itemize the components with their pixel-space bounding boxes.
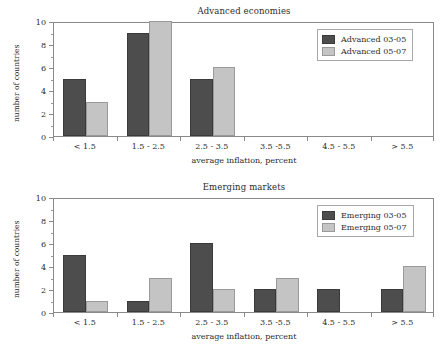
bar — [213, 67, 236, 136]
bar-group — [181, 23, 245, 136]
figure: Advanced economies number of countries 0… — [0, 0, 445, 351]
y-axis-tick-label: 2 — [24, 110, 46, 119]
y-axis-tick-label: 4 — [24, 87, 46, 96]
x-axis-tick-label: < 1.5 — [74, 142, 96, 151]
bar — [276, 278, 299, 313]
x-axis-tick-label: 4.5 - 5.5 — [322, 142, 355, 151]
legend-item: Emerging 05-07 — [322, 221, 407, 233]
x-axis-tick — [244, 137, 245, 141]
chart-title: Emerging markets — [53, 182, 435, 192]
y-axis-tick-label: 10 — [24, 194, 46, 203]
y-axis-tick-label: 4 — [24, 263, 46, 272]
legend-label: Advanced 03-05 — [341, 34, 406, 45]
x-axis-tick — [180, 313, 181, 317]
x-axis-tick-label: > 5.5 — [391, 142, 413, 151]
bar — [149, 278, 172, 313]
bar-group — [245, 199, 309, 312]
y-axis-ticks: 0246810 — [26, 22, 53, 137]
bar — [63, 79, 86, 137]
x-axis-tick — [371, 137, 372, 141]
bar — [403, 266, 426, 312]
x-axis-tick-label: 3.5 -5.5 — [260, 318, 291, 327]
x-axis-tick-label: 2.5 - 3.5 — [195, 318, 228, 327]
legend-item: Advanced 03-05 — [322, 33, 406, 45]
legend-item: Emerging 03-05 — [322, 209, 407, 221]
x-axis-tick — [371, 313, 372, 317]
x-axis-tick-labels: < 1.51.5 - 2.52.5 - 3.53.5 -5.54.5 - 5.5… — [53, 318, 435, 330]
x-axis-tick-label: 2.5 - 3.5 — [195, 142, 228, 151]
x-axis-tick — [433, 137, 434, 141]
bar — [317, 289, 340, 312]
x-axis-tick-label: > 5.5 — [391, 318, 413, 327]
x-axis-tick — [307, 137, 308, 141]
legend: Advanced 03-05 Advanced 05-07 — [317, 29, 413, 61]
x-axis-tick — [180, 137, 181, 141]
y-axis-tick-label: 0 — [24, 133, 46, 142]
bar — [213, 289, 236, 312]
bar-group — [118, 23, 182, 136]
y-axis-tick-label: 6 — [24, 240, 46, 249]
x-axis-tick — [244, 313, 245, 317]
bar — [86, 301, 109, 313]
chart-panel-emerging-markets: Emerging markets number of countries 024… — [0, 176, 445, 351]
y-axis-label: number of countries — [12, 45, 21, 122]
x-axis-label: average inflation, percent — [53, 156, 435, 165]
x-axis-tick — [117, 137, 118, 141]
y-axis-tick-label: 8 — [24, 41, 46, 50]
legend: Emerging 03-05 Emerging 05-07 — [317, 205, 414, 237]
bar — [254, 289, 277, 312]
bar-group — [181, 199, 245, 312]
legend-swatch-icon — [322, 211, 335, 220]
chart-panel-advanced-economies: Advanced economies number of countries 0… — [0, 0, 445, 175]
chart-title: Advanced economies — [53, 6, 435, 16]
bar — [190, 243, 213, 312]
bar — [381, 289, 404, 312]
y-axis-ticks: 0246810 — [26, 198, 53, 313]
y-axis-tick-label: 8 — [24, 217, 46, 226]
bar-group — [118, 199, 182, 312]
legend-label: Emerging 03-05 — [341, 210, 407, 221]
x-axis-tick — [117, 313, 118, 317]
bar-group — [54, 199, 118, 312]
x-axis-tick-label: 4.5 - 5.5 — [322, 318, 355, 327]
y-axis-tick-label: 2 — [24, 286, 46, 295]
legend-item: Advanced 05-07 — [322, 45, 406, 57]
y-axis-tick-label: 0 — [24, 309, 46, 318]
legend-swatch-icon — [322, 223, 335, 232]
bar — [63, 255, 86, 313]
x-axis-tick — [53, 313, 54, 317]
x-axis-label: average inflation, percent — [53, 332, 435, 341]
x-axis-tick-label: < 1.5 — [74, 318, 96, 327]
bar — [127, 33, 150, 137]
y-axis-tick-label: 10 — [24, 18, 46, 27]
legend-swatch-icon — [322, 35, 335, 44]
bar — [86, 102, 109, 137]
y-axis-label: number of countries — [12, 221, 21, 298]
bar-group — [245, 23, 309, 136]
y-axis-tick-label: 6 — [24, 64, 46, 73]
legend-swatch-icon — [322, 47, 335, 56]
x-axis-tick — [307, 313, 308, 317]
legend-label: Emerging 05-07 — [341, 222, 407, 233]
x-axis-tick-labels: < 1.51.5 - 2.52.5 - 3.53.5 -5.54.5 - 5.5… — [53, 142, 435, 154]
x-axis-tick — [53, 137, 54, 141]
bar — [190, 79, 213, 137]
legend-label: Advanced 05-07 — [341, 46, 406, 57]
x-axis-tick — [433, 313, 434, 317]
bar — [149, 21, 172, 136]
x-axis-tick-label: 3.5 -5.5 — [260, 142, 291, 151]
bar — [127, 301, 150, 313]
bar-group — [54, 23, 118, 136]
x-axis-tick-label: 1.5 - 2.5 — [132, 142, 165, 151]
x-axis-tick-label: 1.5 - 2.5 — [132, 318, 165, 327]
